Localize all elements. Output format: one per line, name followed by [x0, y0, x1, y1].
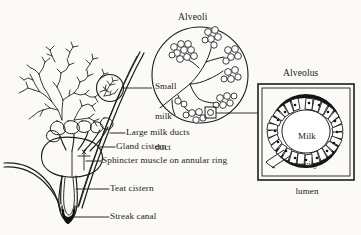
small-milk-duct-line-2: milk: [155, 111, 177, 121]
callout-sphincter-muscle: Sphincter muscle on annular ring: [102, 156, 227, 165]
alveoli-title: Alveoli: [178, 12, 207, 22]
udder-gland-group: [4, 42, 144, 223]
small-milk-duct-line-1: Small: [155, 81, 177, 91]
callout-gland-cistern: Gland cistern: [116, 142, 167, 151]
udder-skin-contour-left: [4, 163, 61, 211]
callout-large-milk-ducts: Large milk ducts: [126, 128, 190, 137]
milk-cavity-lumen-line-1: Milk: [287, 132, 327, 141]
magnifier-circle-icon: [97, 75, 124, 102]
teat-cistern-cavity: [64, 178, 75, 215]
callout-streak-canal: Streak canal: [110, 212, 156, 221]
magnifier-square-icon: [205, 107, 216, 118]
milk-cavity-lumen-label: Milk cavity lumen: [287, 114, 327, 215]
milk-cavity-lumen-line-3: lumen: [287, 187, 327, 196]
milk-cavity-lumen-line-2: cavity: [287, 160, 327, 169]
fine-duct-branches: [19, 42, 109, 126]
figure-canvas: Alveoli Alveolus Small milk duct Milk ca…: [0, 0, 361, 235]
sphincter-annular-ring-marks: [72, 150, 90, 176]
callout-teat-cistern: Teat cistern: [110, 184, 154, 193]
alveolus-title: Alveolus: [283, 68, 318, 78]
